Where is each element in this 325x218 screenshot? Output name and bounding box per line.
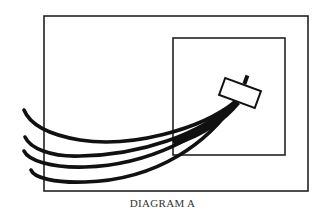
device	[219, 69, 264, 108]
diagram-canvas	[0, 0, 325, 218]
device-body	[219, 78, 261, 108]
outer-frame	[44, 16, 308, 191]
device-post	[242, 75, 249, 85]
cable-bundle	[24, 102, 235, 182]
diagram-caption: DIAGRAM A	[0, 197, 325, 209]
